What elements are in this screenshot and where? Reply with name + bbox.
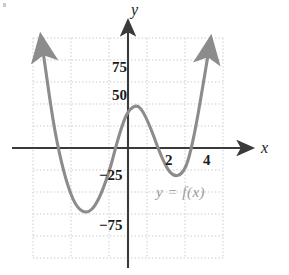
curve-right-arrow-icon: [209, 40, 211, 50]
x-tick-label-4: 4: [203, 153, 211, 168]
plot-canvas: [0, 0, 289, 275]
x-tick-label-2: 2: [165, 153, 173, 168]
curve-left-arrow-icon: [41, 38, 43, 48]
function-graph-figure: 75 50 −25 −75 2 4 x y y = f(x): [0, 0, 289, 275]
y-axis-label: y: [131, 2, 138, 18]
y-tick-label-minus-75: −75: [99, 218, 123, 233]
curve-equation-label: y = f(x): [156, 185, 205, 200]
y-tick-label-50: 50: [112, 88, 127, 103]
x-axis-label: x: [261, 140, 268, 156]
y-tick-label-minus-25: −25: [99, 168, 123, 183]
y-tick-label-75: 75: [112, 60, 127, 75]
